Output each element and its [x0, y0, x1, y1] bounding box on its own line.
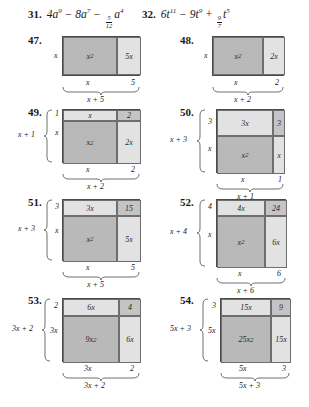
exercise-49-area-model: x 2 x2 2x [62, 109, 140, 163]
left-brace [42, 298, 51, 362]
left-label-4: 4 [208, 202, 212, 211]
bottom-total-label: 5x + 3 [239, 381, 260, 390]
exercise-53-area-model: 6x 4 9x2 6x [62, 298, 140, 362]
cell-6x: 6x [63, 299, 119, 316]
left-total-label: 3x + 2 [12, 324, 33, 333]
left-label-5x: 5x [208, 326, 216, 335]
exercise-32: 32. 6t11 − 9t9 + 9 7 t5 [142, 8, 230, 29]
left-total-label: x + 3 [18, 224, 35, 233]
bottom-total-label: x + 5 [87, 280, 104, 289]
term-3: t5 [223, 8, 230, 20]
bottom-label-x: x [238, 269, 242, 278]
exercise-49-number: 49. [28, 106, 42, 118]
left-label-x: x [208, 144, 212, 153]
left-total-label: x + 1 [18, 130, 35, 139]
exercise-52-area-model: 4x 24 x2 6x [216, 199, 286, 267]
exercise-32-expression: 6t11 − 9t9 + 9 7 t5 [161, 8, 230, 29]
polynomial-exercise-row: 31. 4a9 − 8a7 − 5 12 a4 32. 6t11 − 9t9 + [0, 8, 309, 30]
left-brace [200, 298, 209, 362]
cell-4: 4 [119, 299, 141, 316]
exercise-51-area-model: 3x 15 x2 5x [62, 199, 140, 261]
operator-minus: − [93, 8, 104, 20]
cell-3x: 3x [217, 110, 273, 136]
left-brace [197, 109, 206, 173]
bottom-brace [62, 373, 140, 381]
operator-plus: + [205, 8, 216, 20]
cell-3x: 3x [63, 200, 117, 216]
cell-3: 3 [273, 110, 285, 136]
exercise-47-area-model: x2 5x [62, 36, 140, 76]
left-label-2: 2 [54, 301, 58, 310]
textbook-page: 31. 4a9 − 8a7 − 5 12 a4 32. 6t11 − 9t9 + [0, 0, 309, 407]
cell-2: 2 [117, 110, 141, 121]
exercise-51-number: 51. [28, 196, 42, 208]
left-brace [197, 199, 206, 267]
exercise-50-area-model: 3x 3 x2 x [216, 109, 284, 173]
bottom-label-x: x [86, 165, 90, 174]
cell-6x-right: 6x [119, 316, 141, 363]
exercise-48-area-model: x2 2x [212, 36, 284, 76]
exercise-31-expression: 4a9 − 8a7 − 5 12 a4 [47, 8, 124, 29]
term-3: a4 [114, 8, 123, 20]
cell-5x: 5x [117, 37, 141, 75]
left-label-x: x [55, 226, 59, 235]
exercise-52-number: 52. [180, 196, 194, 208]
fraction-9-7: 9 7 [217, 15, 222, 30]
cell-6x: 6x [265, 216, 287, 268]
left-label-1: 1 [55, 109, 59, 118]
cell-x-squared: x2 [217, 216, 265, 268]
bottom-label-3: 3 [282, 364, 286, 373]
bottom-total-label: x + 6 [237, 286, 254, 295]
cell-x-squared: x2 [63, 216, 117, 262]
cell-9x-squared: 9x2 [63, 316, 119, 363]
left-label-3x: 3x [50, 326, 58, 335]
left-label-x: x [54, 51, 58, 60]
bottom-label-x: x [241, 175, 245, 184]
left-label-3: 3 [212, 301, 216, 310]
bottom-label-x: x [234, 78, 238, 87]
bottom-brace [220, 373, 290, 381]
left-total-label: 5x + 3 [170, 324, 191, 333]
term-1: 6t11 [161, 8, 176, 20]
left-brace [44, 199, 53, 261]
operator-minus: − [179, 8, 190, 20]
exercise-54-area-model: 15x 9 25x2 15x [220, 298, 290, 362]
cell-2x: 2x [263, 37, 285, 75]
bottom-label-5: 5 [131, 78, 135, 87]
cell-x: x [273, 136, 285, 174]
cell-24: 24 [265, 200, 287, 216]
cell-25x-squared: 25x2 [221, 316, 271, 363]
exercise-31: 31. 4a9 − 8a7 − 5 12 a4 [28, 8, 124, 29]
cell-15: 15 [117, 200, 141, 216]
left-label-x: x [208, 230, 212, 239]
bottom-brace [216, 278, 286, 286]
exercise-54-number: 54. [180, 294, 194, 306]
cell-9: 9 [271, 299, 291, 316]
bottom-label-6: 6 [277, 269, 281, 278]
term-1: 4a9 [47, 8, 62, 20]
exercise-53-number: 53. [28, 294, 42, 306]
bottom-total-label: x + 2 [87, 182, 104, 191]
cell-x-squared: x2 [63, 37, 117, 75]
cell-5x: 5x [117, 216, 141, 262]
left-brace [44, 109, 53, 163]
bottom-brace [62, 87, 140, 95]
bottom-label-3x: 3x [84, 364, 92, 373]
left-total-label: x + 3 [170, 135, 187, 144]
exercise-47-number: 47. [28, 34, 42, 46]
bottom-total-label: x + 5 [87, 95, 104, 104]
bottom-brace [62, 174, 140, 182]
left-label-x: x [55, 128, 59, 137]
exercise-32-number: 32. [142, 8, 156, 20]
bottom-brace [62, 272, 140, 280]
cell-2x: 2x [117, 121, 141, 164]
bottom-label-5: 5 [131, 263, 135, 272]
bottom-label-x: x [86, 263, 90, 272]
bottom-brace [212, 87, 284, 95]
operator-minus: − [65, 8, 76, 20]
bottom-label-2: 2 [275, 78, 279, 87]
cell-x-squared: x2 [63, 121, 117, 164]
bottom-total-label: x + 2 [234, 95, 251, 104]
exercise-50-number: 50. [180, 106, 194, 118]
cell-x: x [63, 110, 117, 121]
